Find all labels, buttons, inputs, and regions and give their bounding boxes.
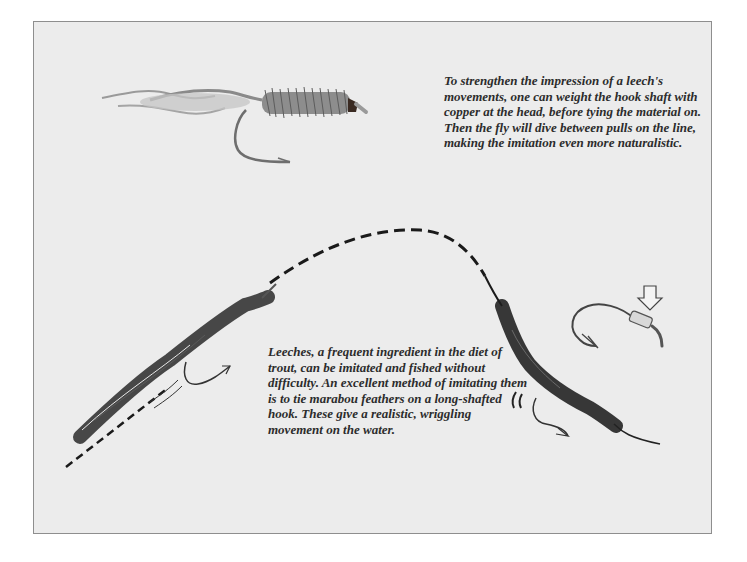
- weighted-leech-fly-illustration: [102, 87, 366, 162]
- leech-fly-left-illustration: [80, 284, 276, 437]
- weighted-hook-illustration: [572, 286, 662, 348]
- caption-weighted-leech: To strengthen the impression of a leech'…: [444, 73, 719, 151]
- caption-leech-imitation: Leeches, a frequent ingredient in the di…: [268, 344, 528, 438]
